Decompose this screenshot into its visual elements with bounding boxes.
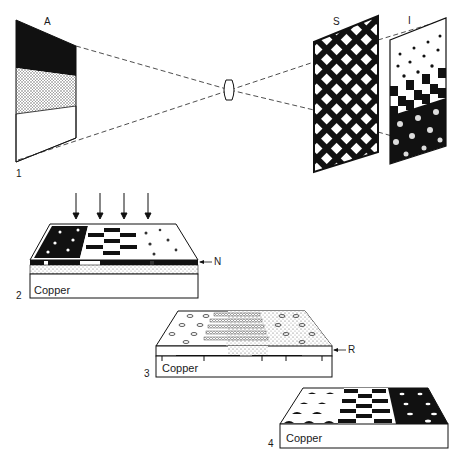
original-label: A — [44, 16, 51, 27]
copper-label-4: Copper — [286, 432, 322, 444]
halftone-image — [390, 18, 446, 164]
exposure-arrows — [73, 193, 151, 219]
halftone-screen — [314, 16, 378, 172]
copper-label-2: Copper — [34, 284, 70, 296]
image-label: I — [408, 15, 411, 26]
panel-1-number: 1 — [16, 168, 22, 179]
panel-2-number: 2 — [16, 290, 22, 301]
panel-2-exposure — [30, 193, 212, 298]
original-tone-strip — [16, 20, 76, 162]
panel-1-projection — [16, 16, 446, 172]
checker-band — [80, 226, 138, 258]
copper-label-3: Copper — [162, 362, 198, 374]
layer-r-label: R — [348, 344, 355, 355]
screen-label: S — [333, 16, 340, 27]
panel-4-number: 4 — [268, 438, 274, 449]
halftone-process-diagram — [0, 0, 474, 468]
lens-icon — [224, 80, 234, 100]
panel-3-number: 3 — [144, 368, 150, 379]
layer-n-label: N — [214, 256, 221, 267]
